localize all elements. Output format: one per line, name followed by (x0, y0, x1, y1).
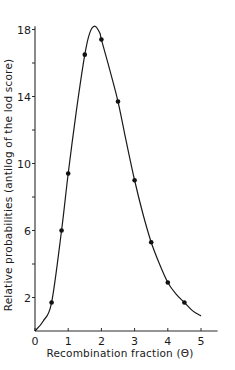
curve-path (35, 26, 201, 331)
data-point (66, 171, 71, 176)
data-point (182, 300, 187, 305)
data-point (149, 240, 154, 245)
x-tick-label: 5 (198, 335, 205, 348)
data-point (116, 99, 121, 104)
y-tick-label: 18 (17, 24, 31, 37)
y-tick-label: 10 (17, 158, 31, 171)
data-point (83, 52, 88, 57)
y-tick-label: 2 (24, 292, 31, 305)
data-points (49, 37, 186, 305)
y-axis-title: Relative probabilities (antilog of the l… (2, 59, 14, 312)
x-tick-label: 0 (32, 335, 39, 348)
x-axis-title: Recombination fraction (Θ) (46, 347, 193, 359)
data-point (132, 178, 137, 183)
y-tick-label: 14 (17, 91, 31, 104)
fitted-curve (35, 26, 201, 331)
data-point (99, 37, 104, 42)
data-point (166, 280, 171, 285)
lod-score-chart: 01234526101418 Recombination fraction (Θ… (0, 0, 235, 370)
y-tick-label: 6 (24, 225, 31, 238)
data-point (49, 300, 54, 305)
axes (35, 26, 218, 331)
data-point (59, 228, 64, 233)
